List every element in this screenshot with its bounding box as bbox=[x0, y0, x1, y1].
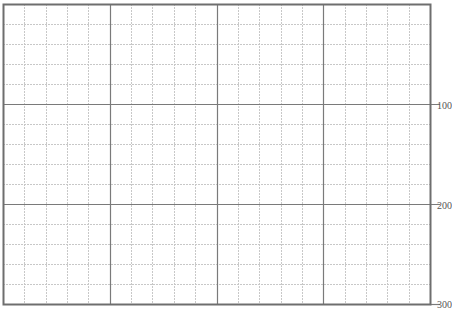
y-tick-label-100: 100 bbox=[437, 101, 452, 111]
y-tick-label-200: 200 bbox=[437, 201, 452, 211]
y-tick-label-300: 300 bbox=[437, 300, 452, 310]
minor-grid-lines bbox=[3, 4, 430, 304]
grid-canvas bbox=[0, 0, 452, 316]
major-grid-lines bbox=[3, 4, 440, 305]
